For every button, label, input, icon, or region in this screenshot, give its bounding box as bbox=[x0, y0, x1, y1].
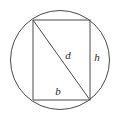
label-height-h: h bbox=[94, 51, 100, 63]
geometry-figure: d h b bbox=[0, 0, 119, 121]
rectangle-diagonal bbox=[33, 20, 90, 100]
label-diagonal-d: d bbox=[65, 49, 71, 61]
figure-canvas: d h b bbox=[0, 0, 119, 121]
label-base-b: b bbox=[55, 85, 61, 97]
